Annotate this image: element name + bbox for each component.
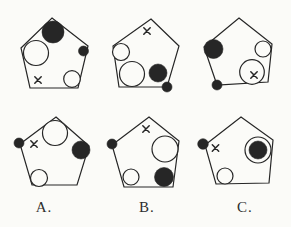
filled-circle — [204, 40, 223, 59]
pentagon-grid-svg — [0, 0, 291, 227]
pentagon-cell-top-left — [21, 18, 89, 88]
filled-circle — [72, 141, 90, 159]
filled-circle — [149, 64, 167, 82]
open-circle — [31, 170, 48, 187]
answer-label-c: C. — [237, 199, 253, 216]
open-circle — [255, 41, 271, 57]
open-circle — [64, 71, 81, 88]
x-mark — [212, 145, 218, 151]
pentagon-cell-bottom-middle — [107, 117, 179, 187]
filled-circle — [14, 138, 24, 148]
pentagon-cell-top-middle — [113, 19, 180, 92]
answer-label-b: B. — [139, 199, 155, 216]
filled-circle — [198, 139, 209, 150]
pentagon-cell-bottom-right — [198, 117, 273, 184]
x-mark — [35, 77, 41, 83]
filled-circle — [249, 141, 267, 159]
open-circle — [24, 41, 49, 66]
answer-label-a: A. — [36, 199, 53, 216]
open-circle — [120, 62, 145, 87]
filled-circle — [155, 168, 174, 187]
filled-circle — [212, 80, 222, 90]
filled-circle — [42, 21, 64, 43]
pentagon-cell-bottom-left — [14, 117, 90, 187]
filled-circle — [79, 46, 89, 56]
x-mark — [143, 126, 149, 132]
open-circle — [217, 168, 233, 184]
open-circle — [123, 169, 139, 185]
open-circle — [43, 121, 68, 146]
x-mark — [31, 141, 37, 147]
filled-circle — [162, 82, 172, 92]
open-circle — [113, 44, 130, 61]
pentagon-cell-top-right — [204, 18, 272, 90]
open-circle — [152, 136, 178, 162]
filled-circle — [107, 139, 117, 149]
x-mark — [144, 28, 150, 34]
puzzle-figure: A. B. C. — [0, 0, 291, 227]
